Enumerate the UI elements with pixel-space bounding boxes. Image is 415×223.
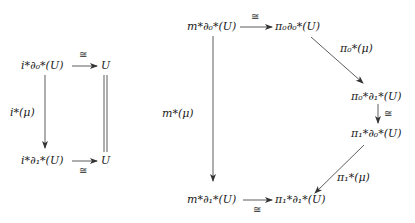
diagram-arrows [0, 0, 415, 223]
label-left-top-iso: ≅ [79, 50, 87, 60]
node-left-top-right: U [101, 60, 110, 71]
label-right-left-vertical: m*(μ) [162, 108, 194, 119]
node-right-mid-lower: π₁*∂₀*(U) [351, 128, 402, 139]
label-right-top-iso: ≅ [251, 12, 259, 22]
node-right-bottom-right: π₁*∂₁*(U) [275, 194, 326, 205]
label-diag-upper: π₀*(μ) [340, 43, 373, 54]
arrow-diag-lower [315, 145, 364, 193]
node-right-mid-upper: π₀*∂₁*(U) [351, 91, 402, 102]
node-left-bottom-right: U [101, 155, 110, 166]
node-left-top-left: i*∂₀*(U) [21, 60, 63, 71]
node-right-top-right: π₀∂₀*(U) [275, 21, 320, 32]
label-left-vertical: i*(μ) [10, 107, 35, 118]
node-right-bottom-left: m*∂₁*(U) [187, 194, 236, 205]
label-diag-lower: π₁*(μ) [337, 172, 370, 183]
label-vertical-mid-iso: ≅ [384, 109, 392, 119]
node-left-bottom-left: i*∂₁*(U) [21, 155, 63, 166]
node-right-top-left: m*∂₀*(U) [187, 21, 236, 32]
label-right-bottom-iso: ≅ [253, 205, 261, 215]
label-left-bottom-iso: ≅ [79, 166, 87, 176]
